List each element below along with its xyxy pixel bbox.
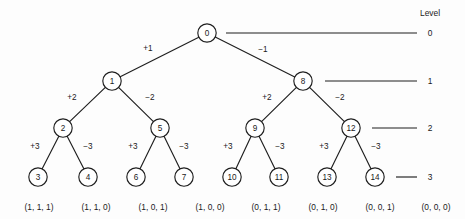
tree-edge-0-1 <box>120 37 199 77</box>
edge-label-n0-n1: +1 <box>143 44 153 53</box>
edge-label-n2-n4: −3 <box>83 142 93 151</box>
node-label-5: 5 <box>158 124 163 133</box>
tree-edge-5-6 <box>140 136 156 168</box>
level-legend-group: Level 0123 <box>420 8 440 182</box>
tree-node-12[interactable]: 12 <box>342 119 360 137</box>
level-legend-heading: Level <box>420 8 440 18</box>
node-label-1: 1 <box>110 77 115 86</box>
leaf-codeword-n3: (1, 1, 1) <box>25 202 54 212</box>
level-rules-group <box>226 33 417 177</box>
tree-edge-9-10 <box>236 136 251 168</box>
tree-node-8[interactable]: 8 <box>294 72 312 90</box>
edge-label-n8-n12: −2 <box>335 93 345 102</box>
node-label-4: 4 <box>86 173 91 182</box>
node-label-6: 6 <box>134 173 139 182</box>
tree-node-7[interactable]: 7 <box>175 168 193 186</box>
tree-node-11[interactable]: 11 <box>270 168 288 186</box>
tree-node-6[interactable]: 6 <box>127 168 145 186</box>
node-label-0: 0 <box>205 29 210 38</box>
tree-node-5[interactable]: 5 <box>151 119 169 137</box>
tree-node-13[interactable]: 13 <box>318 168 336 186</box>
edge-labels-group: +1−1+2−2+2−2+3−3+3−3+3−3+3−3 <box>30 44 381 151</box>
leaf-tuples-group: (1, 1, 1)(1, 1, 0)(1, 0, 1)(1, 0, 0)(0, … <box>25 202 451 212</box>
node-label-7: 7 <box>182 173 187 182</box>
tree-node-14[interactable]: 14 <box>366 168 384 186</box>
node-label-2: 2 <box>61 124 66 133</box>
tree-diagram-svg: 01825912346710111314 +1−1+2−2+2−2+3−3+3−… <box>0 0 465 219</box>
edge-label-n5-n6: +3 <box>128 142 138 151</box>
edge-label-n0-n8: −1 <box>258 45 268 54</box>
leaf-codeword-n7: (1, 0, 0) <box>196 202 225 212</box>
tree-diagram-figure: 01825912346710111314 +1−1+2−2+2−2+3−3+3−… <box>0 0 465 219</box>
tree-node-0[interactable]: 0 <box>198 24 216 42</box>
tree-edge-0-8 <box>215 37 295 77</box>
leaf-codeword-n13: (0, 0, 1) <box>366 202 395 212</box>
tree-edge-12-14 <box>355 136 371 168</box>
tree-edge-12-13 <box>331 136 347 168</box>
edge-label-n2-n3: +3 <box>30 142 40 151</box>
level-number-1: 1 <box>428 76 433 86</box>
tree-node-2[interactable]: 2 <box>54 119 72 137</box>
tree-node-1[interactable]: 1 <box>103 72 121 90</box>
node-label-3: 3 <box>36 173 41 182</box>
edge-label-n12-n13: +3 <box>319 142 329 151</box>
edge-label-n8-n9: +2 <box>262 93 272 102</box>
node-label-14: 14 <box>370 173 380 182</box>
level-number-3: 3 <box>428 172 433 182</box>
tree-edge-2-3 <box>42 136 59 169</box>
leaf-codeword-n11: (0, 1, 0) <box>309 202 338 212</box>
edge-label-n12-n14: −3 <box>371 142 381 151</box>
tree-node-4[interactable]: 4 <box>79 168 97 186</box>
leaf-codeword-n14: (0, 0, 0) <box>422 202 451 212</box>
edge-label-n1-n5: −2 <box>145 93 155 102</box>
tree-nodes-group: 01825912346710111314 <box>29 24 384 186</box>
edge-label-n9-n10: +3 <box>223 142 233 151</box>
level-number-2: 2 <box>428 123 433 133</box>
edge-label-n5-n7: −3 <box>179 142 189 151</box>
node-label-12: 12 <box>346 124 356 133</box>
node-label-10: 10 <box>227 173 237 182</box>
tree-edge-9-11 <box>259 136 275 168</box>
leaf-codeword-n6: (1, 0, 1) <box>139 202 168 212</box>
level-number-0: 0 <box>428 28 433 38</box>
node-label-13: 13 <box>322 173 332 182</box>
leaf-codeword-n10: (0, 1, 1) <box>252 202 281 212</box>
tree-node-10[interactable]: 10 <box>223 168 241 186</box>
node-label-11: 11 <box>275 173 284 182</box>
tree-node-9[interactable]: 9 <box>246 119 264 137</box>
tree-node-3[interactable]: 3 <box>29 168 47 186</box>
tree-edge-5-7 <box>164 136 180 168</box>
node-label-9: 9 <box>253 124 258 133</box>
node-label-8: 8 <box>301 77 306 86</box>
leaf-codeword-n4: (1, 1, 0) <box>82 202 111 212</box>
edge-label-n9-n11: −3 <box>275 142 285 151</box>
edge-label-n1-n2: +2 <box>67 93 77 102</box>
tree-edge-2-4 <box>67 136 84 169</box>
